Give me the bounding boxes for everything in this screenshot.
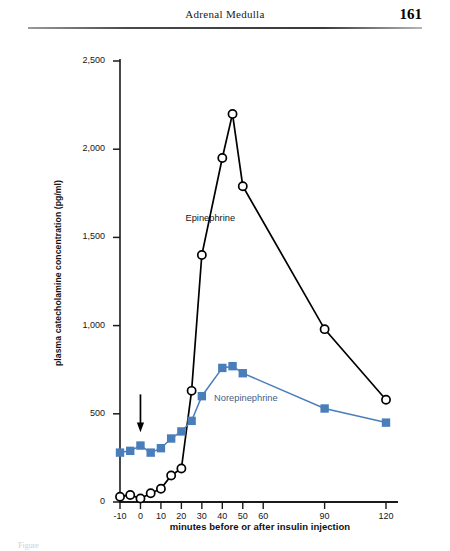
data-point-epinephrine: [136, 494, 144, 502]
data-point-epinephrine: [228, 110, 236, 118]
figure-catecholamine-chart: plasma catecholamine concentration (pg/m…: [0, 0, 450, 551]
data-point-epinephrine: [167, 471, 175, 479]
data-point-norepinephrine: [228, 362, 236, 370]
data-point-norepinephrine: [167, 434, 175, 442]
data-point-norepinephrine: [146, 448, 154, 456]
data-point-epinephrine: [157, 485, 165, 493]
data-point-norepinephrine: [157, 444, 165, 452]
data-point-epinephrine: [198, 251, 206, 259]
data-point-norepinephrine: [382, 418, 390, 426]
data-point-norepinephrine: [320, 404, 328, 412]
data-point-epinephrine: [218, 154, 226, 162]
data-point-epinephrine: [321, 325, 329, 333]
data-point-norepinephrine: [218, 364, 226, 372]
series-line-norepinephrine: [120, 366, 386, 452]
insulin-injection-arrow: [137, 394, 144, 432]
data-point-norepinephrine: [187, 417, 195, 425]
series-line-epinephrine: [120, 114, 386, 499]
data-point-epinephrine: [177, 464, 185, 472]
data-point-epinephrine: [147, 489, 155, 497]
data-point-epinephrine: [382, 396, 390, 404]
data-point-norepinephrine: [126, 447, 134, 455]
data-point-norepinephrine: [239, 369, 247, 377]
data-point-norepinephrine: [116, 448, 124, 456]
data-point-epinephrine: [188, 387, 196, 395]
data-point-norepinephrine: [136, 441, 144, 449]
data-point-epinephrine: [116, 493, 124, 501]
data-point-norepinephrine: [198, 392, 206, 400]
figure-caption-partial: Figure: [18, 541, 318, 550]
data-point-norepinephrine: [177, 427, 185, 435]
data-point-epinephrine: [239, 182, 247, 190]
chart-plot-area: [0, 0, 450, 551]
data-point-epinephrine: [126, 491, 134, 499]
